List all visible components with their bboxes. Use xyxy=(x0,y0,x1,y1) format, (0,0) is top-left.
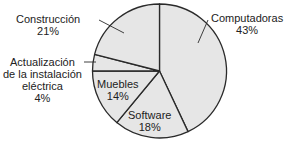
label-actualizacion: Actualización de la instalación eléctric… xyxy=(3,56,82,104)
label-construccion-pct: 21% xyxy=(16,25,80,37)
label-software-name: Software xyxy=(128,109,171,121)
label-muebles-name: Muebles xyxy=(97,78,139,90)
label-construccion-name: Construcción xyxy=(16,13,80,25)
label-construccion: Construcción 21% xyxy=(16,13,80,37)
label-software-pct: 18% xyxy=(128,121,171,133)
label-software: Software 18% xyxy=(128,109,171,133)
label-actualizacion-line3: eléctrica xyxy=(3,80,82,92)
label-actualizacion-line2: de la instalación xyxy=(3,68,82,80)
label-computadoras-name: Computadoras xyxy=(211,12,283,24)
label-computadoras-pct: 43% xyxy=(211,24,283,36)
label-actualizacion-pct: 4% xyxy=(3,92,82,104)
label-actualizacion-line1: Actualización xyxy=(3,56,82,68)
label-muebles-pct: 14% xyxy=(97,90,139,102)
label-muebles: Muebles 14% xyxy=(97,78,139,102)
label-computadoras: Computadoras 43% xyxy=(211,12,283,36)
